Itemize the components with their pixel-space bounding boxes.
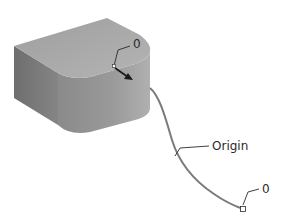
diagram-canvas	[0, 0, 285, 224]
origin-leader	[175, 146, 209, 156]
solid-block	[14, 18, 150, 133]
end-point-marker	[241, 207, 246, 212]
start-point-label: 0	[133, 38, 141, 50]
end-point-label: 0	[262, 183, 270, 195]
start-point-marker	[113, 65, 116, 68]
origin-label: Origin	[212, 140, 248, 152]
end-point-leader	[243, 189, 259, 205]
